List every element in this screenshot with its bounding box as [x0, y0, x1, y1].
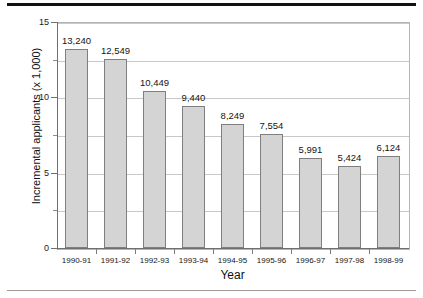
- bar: [299, 158, 322, 248]
- y-tick-major: [51, 173, 57, 174]
- y-tick-minor: [53, 135, 57, 136]
- y-axis-title: Incremental applicants (x 1,000): [30, 16, 42, 236]
- x-tick: [291, 249, 292, 254]
- bar-value-label: 10,449: [130, 78, 180, 88]
- x-axis-line: [57, 248, 409, 249]
- bar-value-label: 9,440: [169, 93, 219, 103]
- y-tick-major: [51, 22, 57, 23]
- x-axis-title: Year: [57, 269, 408, 282]
- bar: [377, 156, 400, 248]
- x-tick: [330, 249, 331, 254]
- bar: [182, 106, 205, 248]
- x-tick: [213, 249, 214, 254]
- x-tick: [174, 249, 175, 254]
- bar-value-label: 12,549: [91, 46, 141, 56]
- y-axis-line: [57, 22, 58, 249]
- y-tick-label: 0: [44, 244, 49, 253]
- bar-value-label: 13,240: [52, 36, 102, 46]
- bar: [143, 91, 166, 248]
- bar: [260, 134, 283, 248]
- x-tick: [369, 249, 370, 254]
- bar-value-label: 6,124: [364, 143, 414, 153]
- bar-value-label: 5,424: [325, 153, 375, 163]
- bar: [104, 59, 127, 248]
- y-tick-label: 5: [44, 169, 49, 178]
- x-tick: [135, 249, 136, 254]
- y-tick-minor: [53, 210, 57, 211]
- y-tick-major: [51, 97, 57, 98]
- gridline: [58, 23, 409, 24]
- bar-value-label: 7,554: [247, 121, 297, 131]
- x-tick-label: 1998-99: [365, 256, 413, 265]
- y-tick-major: [51, 248, 57, 249]
- bar: [221, 124, 244, 248]
- bar: [338, 166, 361, 248]
- x-tick: [96, 249, 97, 254]
- x-tick: [252, 249, 253, 254]
- y-tick-minor: [53, 60, 57, 61]
- bar-value-label: 8,249: [208, 111, 258, 121]
- bar: [65, 49, 88, 248]
- bar-chart: 051015 13,2401990-9112,5491991-9210,4491…: [0, 0, 423, 298]
- chart-figure: 051015 13,2401990-9112,5491991-9210,4491…: [0, 0, 423, 298]
